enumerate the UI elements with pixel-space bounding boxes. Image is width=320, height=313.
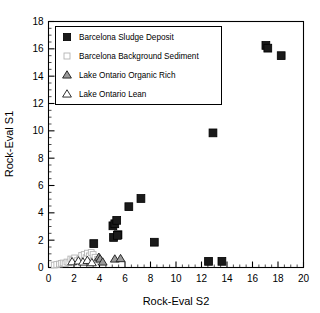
legend-label: Barcelona Background Sediment	[79, 52, 199, 61]
data-point	[125, 203, 133, 211]
y-axis-tick-labels: 024681012141618	[32, 16, 44, 273]
data-point	[113, 231, 121, 239]
y-tick-label: 14	[32, 71, 44, 82]
x-tick-label: 2	[71, 273, 77, 284]
y-axis-title: Rock-Eval S1	[3, 111, 15, 178]
y-axis-ticks	[49, 22, 55, 268]
legend-label: Lake Ontario Lean	[79, 90, 147, 99]
x-tick-label: 4	[97, 273, 103, 284]
data-point	[205, 257, 213, 265]
legend-label: Barcelona Sludge Deposit	[79, 33, 174, 42]
y-tick-label: 18	[32, 16, 44, 27]
data-point	[90, 240, 98, 248]
legend: Barcelona Sludge DepositBarcelona Backgr…	[56, 27, 222, 105]
y-tick-label: 8	[38, 153, 44, 164]
data-point	[137, 195, 145, 203]
data-point	[150, 238, 158, 246]
plot-canvas: 02468101214161820 024681012141618 Rock-E…	[0, 0, 320, 313]
y-tick-label: 6	[38, 180, 44, 191]
x-tick-label: 14	[221, 273, 233, 284]
x-axis-tick-labels: 02468101214161820	[46, 273, 310, 284]
legend-label: Lake Ontario Organic Rich	[79, 71, 176, 80]
legend-marker-open-square	[64, 53, 70, 59]
data-point	[264, 44, 272, 52]
x-tick-label: 16	[247, 273, 259, 284]
y-tick-label: 10	[32, 125, 44, 136]
x-tick-label: 8	[148, 273, 154, 284]
x-axis-title: Rock-Eval S2	[143, 295, 210, 307]
y-tick-label: 16	[32, 43, 44, 54]
x-tick-label: 18	[272, 273, 284, 284]
y-tick-label: 2	[38, 235, 44, 246]
x-tick-label: 20	[298, 273, 310, 284]
data-point	[277, 52, 285, 60]
data-point	[218, 257, 226, 265]
series-lake-ontario-organic-rich	[94, 253, 125, 265]
x-tick-label: 12	[196, 273, 208, 284]
data-point	[113, 216, 121, 224]
x-tick-label: 10	[170, 273, 182, 284]
legend-marker-filled-square	[63, 33, 70, 40]
data-point	[209, 129, 217, 137]
data-point	[116, 254, 125, 261]
y-tick-label: 0	[38, 262, 44, 273]
x-tick-label: 6	[122, 273, 128, 284]
y-tick-label: 4	[38, 207, 44, 218]
x-tick-label: 0	[46, 273, 52, 284]
scatter-plot-figure: 02468101214161820 024681012141618 Rock-E…	[0, 0, 320, 313]
y-tick-label: 12	[32, 98, 44, 109]
